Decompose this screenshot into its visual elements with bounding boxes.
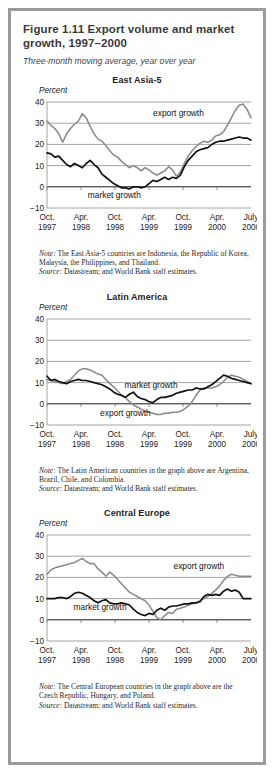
x-tick-label-month: July <box>244 430 257 439</box>
y-tick-label: −10 <box>30 421 44 430</box>
y-tick-label: 0 <box>39 399 44 408</box>
x-tick-label-month: Oct. <box>175 213 190 222</box>
series-annotation-market: market growth <box>125 379 178 389</box>
figure-inner: Figure 1.11 Export volume and market gro… <box>11 11 263 762</box>
x-tick-label-month: Oct. <box>107 213 122 222</box>
x-tick-label-year: 1999 <box>174 440 193 449</box>
source-label: Source: <box>39 701 62 710</box>
x-tick-label-month: Apr. <box>142 213 157 222</box>
x-tick-label-year: 1999 <box>174 656 193 665</box>
panel-east-asia-5: East Asia-5 Percent −10010203040Oct.1997… <box>23 75 251 277</box>
y-tick-label: 0 <box>39 183 44 192</box>
y-tick-label: 30 <box>35 336 45 345</box>
x-tick-label-month: Apr. <box>210 646 225 655</box>
panel-latin-america: Latin America Percent −10010203040Oct.19… <box>23 292 251 494</box>
x-tick-label-year: 1997 <box>38 223 57 232</box>
note-text: The East Asia-5 countries are Indonesia,… <box>39 249 249 267</box>
x-tick-label-year: 2000 <box>208 440 227 449</box>
x-tick-label-month: Oct. <box>39 430 54 439</box>
figure-subtitle: Three-month moving average, year over ye… <box>23 56 251 67</box>
x-tick-label-year: 1998 <box>106 440 125 449</box>
y-tick-label: 20 <box>35 357 45 366</box>
series-annotation-export: export growth <box>153 108 204 118</box>
y-axis-unit-label: Percent <box>39 519 251 529</box>
x-tick-label-year: 2000 <box>208 223 227 232</box>
x-tick-label-month: Apr. <box>74 646 89 655</box>
x-tick-label-month: Apr. <box>210 213 225 222</box>
x-tick-label-year: 1998 <box>72 656 91 665</box>
line-chart-latin-america: −10010203040Oct.1997Apr.1998Oct.1998Apr.… <box>23 313 257 463</box>
note-label: Note: <box>39 466 56 475</box>
figure-title: Figure 1.11 Export volume and market gro… <box>23 23 251 50</box>
x-tick-label-month: Oct. <box>175 430 190 439</box>
y-tick-label: 20 <box>35 574 45 583</box>
series-annotation-export: export growth <box>100 407 151 417</box>
x-tick-label-month: Oct. <box>39 213 54 222</box>
note-text: The Latin American countries in the grap… <box>39 466 249 484</box>
x-tick-label-year: 2000 <box>208 656 227 665</box>
x-tick-label-month: Oct. <box>107 430 122 439</box>
y-tick-label: −10 <box>30 637 44 646</box>
figure-frame: Figure 1.11 Export volume and market gro… <box>8 8 266 765</box>
x-tick-label-month: Apr. <box>74 430 89 439</box>
source-label: Source: <box>39 484 62 493</box>
x-tick-label-year: 1998 <box>106 223 125 232</box>
panel-divider <box>23 277 251 284</box>
x-tick-label-year: 1998 <box>106 656 125 665</box>
x-tick-label-month: Oct. <box>39 646 54 655</box>
x-tick-label-year: 2000 <box>242 440 257 449</box>
y-tick-label: 40 <box>35 315 45 324</box>
x-tick-label-year: 1999 <box>140 656 159 665</box>
x-tick-label-month: July <box>244 213 257 222</box>
x-tick-label-year: 2000 <box>242 223 257 232</box>
y-tick-label: 30 <box>35 119 45 128</box>
series-annotation-export: export growth <box>173 561 224 571</box>
series-annotation-market: market growth <box>88 190 141 200</box>
x-tick-label-year: 1997 <box>38 656 57 665</box>
panel-divider <box>23 493 251 500</box>
plot-area: −10010203040Oct.1997Apr.1998Oct.1998Apr.… <box>23 96 251 246</box>
x-tick-label-month: Apr. <box>74 213 89 222</box>
x-tick-label-year: 1998 <box>72 223 91 232</box>
panel-title: East Asia-5 <box>23 75 251 85</box>
line-chart-east-asia-5: −10010203040Oct.1997Apr.1998Oct.1998Apr.… <box>23 96 257 246</box>
y-tick-label: 40 <box>35 531 45 540</box>
x-tick-label-month: July <box>244 646 257 655</box>
x-tick-label-month: Apr. <box>142 430 157 439</box>
x-tick-label-year: 1999 <box>174 223 193 232</box>
panel-note: Note: The Central European countries in … <box>39 682 251 710</box>
plot-area: −10010203040Oct.1997Apr.1998Oct.1998Apr.… <box>23 529 251 679</box>
y-tick-label: 20 <box>35 140 45 149</box>
y-tick-label: 0 <box>39 616 44 625</box>
note-text: The Central European countries in the gr… <box>39 682 233 700</box>
y-tick-label: 40 <box>35 98 45 107</box>
x-tick-label-year: 1997 <box>38 440 57 449</box>
x-tick-label-month: Oct. <box>107 646 122 655</box>
plot-area: −10010203040Oct.1997Apr.1998Oct.1998Apr.… <box>23 313 251 463</box>
x-tick-label-month: Apr. <box>210 430 225 439</box>
y-tick-label: 30 <box>35 552 45 561</box>
source-label: Source: <box>39 267 62 276</box>
note-label: Note: <box>39 249 56 258</box>
line-chart-central-europe: −10010203040Oct.1997Apr.1998Oct.1998Apr.… <box>23 529 257 679</box>
y-tick-label: 10 <box>35 162 45 171</box>
source-text: Datastream; and World Bank staff estimat… <box>62 267 198 276</box>
panel-title: Latin America <box>23 292 251 302</box>
source-text: Datastream; and World Bank staff estimat… <box>62 484 198 493</box>
x-tick-label-year: 2000 <box>242 656 257 665</box>
x-tick-label-year: 1999 <box>140 223 159 232</box>
note-label: Note: <box>39 682 56 691</box>
panel-note: Note: The East Asia-5 countries are Indo… <box>39 249 251 277</box>
x-tick-label-month: Apr. <box>142 646 157 655</box>
y-tick-label: 10 <box>35 378 45 387</box>
y-axis-unit-label: Percent <box>39 86 251 96</box>
y-tick-label: −10 <box>30 204 44 213</box>
series-annotation-market: market growth <box>74 602 127 612</box>
panel-note: Note: The Latin American countries in th… <box>39 466 251 494</box>
panel-title: Central Europe <box>23 508 251 518</box>
y-tick-label: 10 <box>35 595 45 604</box>
source-text: Datastream; and World Bank staff estimat… <box>62 701 198 710</box>
panel-central-europe: Central Europe Percent −10010203040Oct.1… <box>23 508 251 710</box>
x-tick-label-year: 1999 <box>140 440 159 449</box>
x-tick-label-year: 1998 <box>72 440 91 449</box>
